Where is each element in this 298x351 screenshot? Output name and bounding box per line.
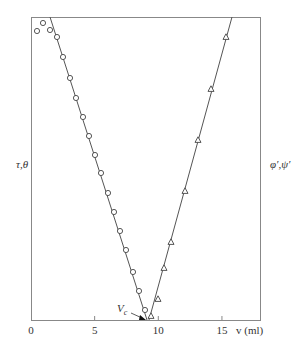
circle-marker xyxy=(117,228,122,233)
x-axis-ticks: 051015 xyxy=(28,316,228,336)
fit-line xyxy=(149,17,232,320)
triangle-marker xyxy=(168,239,174,245)
x-axis-label: v (ml) xyxy=(236,324,264,337)
fit-lines xyxy=(50,17,232,320)
y-axis-label-right: φ′,ψ′ xyxy=(270,158,291,170)
svg-text:Vc: Vc xyxy=(117,302,128,317)
circle-marker xyxy=(130,269,135,274)
x-tick-label: 5 xyxy=(92,324,98,336)
circle-marker xyxy=(86,133,91,138)
triangle-marker xyxy=(223,34,229,40)
circle-marker xyxy=(92,152,97,157)
circle-marker xyxy=(60,54,65,59)
circle-marker xyxy=(54,34,59,39)
circle-marker xyxy=(34,28,39,33)
triangle-marker xyxy=(161,265,167,271)
circle-marker xyxy=(80,114,85,119)
triangle-marker xyxy=(148,313,154,319)
circle-marker xyxy=(111,209,116,214)
x-tick-label: 15 xyxy=(216,324,228,336)
titration-chart: 051015 τ,θ φ′,ψ′ v (ml) Vc xyxy=(0,0,298,351)
triangle-marker xyxy=(182,188,188,194)
circle-marker xyxy=(47,27,52,32)
circle-marker xyxy=(73,95,78,100)
circle-marker xyxy=(98,170,103,175)
circle-marker xyxy=(67,75,72,80)
plot-frame xyxy=(32,18,261,321)
circle-marker xyxy=(40,20,45,25)
arrow-icon xyxy=(139,315,146,320)
circle-marker xyxy=(123,247,128,252)
x-tick-label: 0 xyxy=(28,324,34,336)
circle-marker xyxy=(105,190,110,195)
y-axis-label-left: τ,θ xyxy=(16,158,29,170)
triangle-marker xyxy=(195,137,201,143)
x-tick-label: 10 xyxy=(153,324,165,336)
circle-marker xyxy=(136,288,141,293)
circle-marker xyxy=(142,307,147,312)
